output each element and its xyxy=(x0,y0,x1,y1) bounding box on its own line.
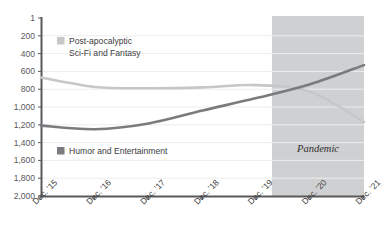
y-tick-label-400: 400 xyxy=(21,49,35,59)
y-tick-label-1: 1 xyxy=(30,13,35,23)
pandemic-shaded-band xyxy=(272,16,364,196)
y-tick-label-200: 200 xyxy=(21,31,35,41)
y-tick-label-1800: 1,800 xyxy=(14,173,36,183)
y-tick-label-600: 600 xyxy=(21,66,35,76)
y-tick-label-800: 800 xyxy=(21,84,35,94)
y-tick-label-1600: 1,600 xyxy=(14,155,36,165)
x-tick-label-dec19: Dec. '19 xyxy=(246,177,275,206)
legend-label-humor-and-entertainment: Humor and Entertainment xyxy=(69,146,168,156)
pandemic-band-label: Pandemic xyxy=(296,143,339,154)
y-tick-label-1400: 1,400 xyxy=(14,138,36,148)
x-tick-label-dec16: Dec. '16 xyxy=(84,177,113,206)
x-tick-label-dec17: Dec. '17 xyxy=(138,177,167,206)
chart-canvas: 1 200 400 600 800 1,000 1,200 1,400 1,60… xyxy=(0,0,390,250)
y-tick-label-1200: 1,200 xyxy=(14,120,36,130)
legend-label-post-apocalyptic-line2: Sci-Fi and Fantasy xyxy=(69,48,141,58)
legend-swatch-humor-and-entertainment xyxy=(57,147,65,155)
legend-label-post-apocalyptic-line1: Post-apocalyptic xyxy=(69,36,133,46)
legend-swatch-post-apocalyptic-scifi-fantasy xyxy=(57,37,65,45)
y-tick-label-1000: 1,000 xyxy=(14,102,36,112)
rank-line-chart: 1 200 400 600 800 1,000 1,200 1,400 1,60… xyxy=(0,0,390,250)
x-tick-label-dec18: Dec. '18 xyxy=(192,177,221,206)
